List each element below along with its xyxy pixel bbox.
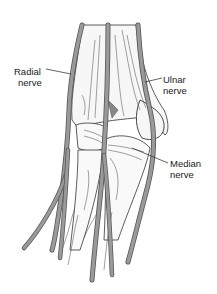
radial-nerve-label: Radial nerve [14,66,42,88]
anatomy-drawing [0,0,217,294]
median-nerve-label: Median nerve [170,158,201,180]
radial-leader-line [46,69,71,74]
ulnar-nerve-label: Ulnar nerve [163,74,187,96]
elbow-nerve-illustration: Radial nerve Ulnar nerve Median nerve [0,0,217,294]
